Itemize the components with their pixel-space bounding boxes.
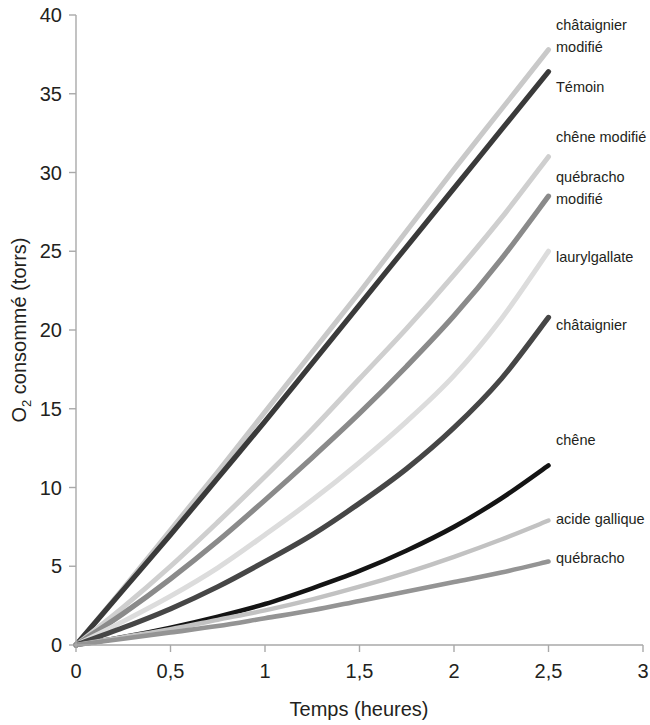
legend-label-laurylgallate: laurylgallate: [556, 249, 633, 265]
x-tick-label: 1: [259, 660, 270, 682]
series-line: [76, 521, 549, 645]
y-axis-title-base: O: [8, 407, 30, 423]
y-tick-label: 40: [40, 4, 62, 26]
legend-label-qu-bracho: québracho: [556, 550, 625, 566]
series-line: [76, 72, 549, 645]
legend-label-acide-gallique: acide gallique: [556, 511, 645, 527]
legend-label-ch-taignier-modifi-: modifié: [556, 39, 603, 55]
x-tick-label: 2: [448, 660, 459, 682]
y-axis-tick-labels: 0510152025303540: [40, 4, 62, 656]
y-tick-label: 20: [40, 319, 62, 341]
legend-label-t-moin: Témoin: [556, 79, 604, 95]
x-axis-tick-labels: 00,511,522,53: [70, 660, 648, 682]
y-tick-label: 10: [40, 477, 62, 499]
oxygen-consumption-chart: 00,511,522,53 0510152025303540 châtaigni…: [0, 0, 650, 725]
y-axis-title: O2 consommé (torrs): [8, 237, 34, 422]
y-tick-label: 35: [40, 83, 62, 105]
legend-label-qu-bracho-modifi-: québracho: [556, 169, 625, 185]
y-tick-label: 15: [40, 398, 62, 420]
y-axis-title-subscript: 2: [19, 400, 34, 407]
x-tick-label: 0: [70, 660, 81, 682]
legend-label-ch-taignier: châtaignier: [556, 317, 627, 333]
x-tick-label: 2,5: [535, 660, 563, 682]
legend-label-ch-taignier-modifi-: châtaignier: [556, 17, 627, 33]
x-tick-label: 0,5: [157, 660, 185, 682]
y-tick-label: 30: [40, 162, 62, 184]
series-group: [76, 50, 549, 645]
legend-labels: châtaigniermodifiéTémoinchêne modifiéqué…: [556, 17, 646, 566]
y-tick-label: 0: [51, 634, 62, 656]
legend-label-ch-ne-modifi-: chêne modifié: [556, 129, 646, 145]
x-tick-label: 1,5: [346, 660, 374, 682]
y-axis-title-rest: consommé (torrs): [8, 237, 30, 399]
x-tick-label: 3: [637, 660, 648, 682]
y-axis-title-text: O2 consommé (torrs): [8, 237, 34, 422]
legend-label-qu-bracho-modifi-: modifié: [556, 191, 603, 207]
y-tick-label: 25: [40, 240, 62, 262]
legend-label-ch-ne: chêne: [556, 432, 596, 448]
x-axis-title: Temps (heures): [290, 698, 429, 720]
y-tick-label: 5: [51, 555, 62, 577]
chart-canvas: 00,511,522,53 0510152025303540 châtaigni…: [0, 0, 650, 725]
